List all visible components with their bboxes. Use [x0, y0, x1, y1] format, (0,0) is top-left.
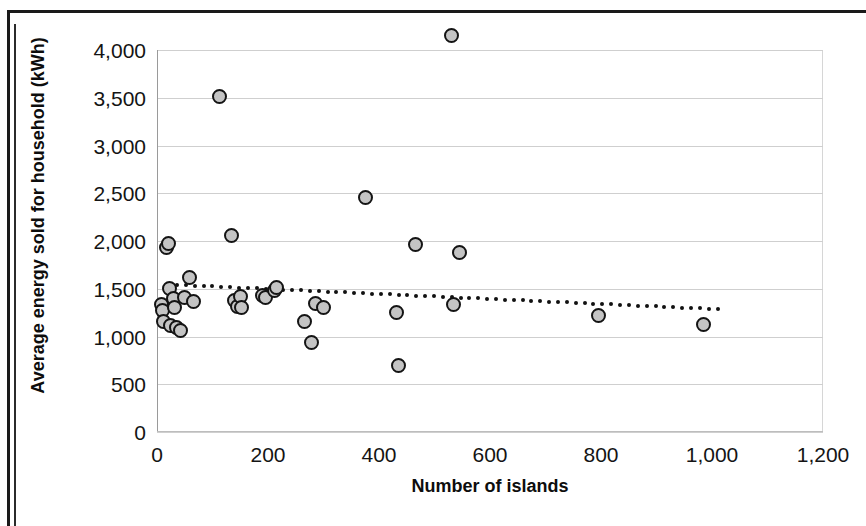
x-axis-tick-labels: 02004006008001,0001,200 [0, 444, 866, 472]
figure: Average energy sold for household (kWh) … [0, 0, 866, 526]
scatter-point [161, 236, 176, 251]
gridline [157, 384, 823, 385]
y-tick-label: 4,000 [93, 40, 146, 61]
trendline-dot [574, 301, 578, 305]
x-tick-label: 400 [361, 444, 396, 465]
gridline [157, 98, 823, 99]
scatter-point [186, 294, 201, 309]
x-tick-label: 600 [472, 444, 507, 465]
y-tick-label: 2,000 [93, 231, 146, 252]
x-axis-title: Number of islands [157, 476, 823, 497]
y-tick-label: 1,000 [93, 327, 146, 348]
y-axis-line [157, 50, 158, 432]
x-tick-label: 800 [583, 444, 618, 465]
gridline [157, 432, 823, 433]
gridline [157, 337, 823, 338]
x-tick-label: 200 [250, 444, 285, 465]
scatter-point [452, 245, 467, 260]
trendline-dot [308, 289, 312, 293]
y-tick-label: 2,500 [93, 183, 146, 204]
trendline-dot [547, 300, 551, 304]
trendline-dot [246, 286, 250, 290]
trendline-dot [379, 292, 383, 296]
trendline-dot [707, 307, 711, 311]
trendline-dot [689, 306, 693, 310]
y-tick-label: 3,000 [93, 136, 146, 157]
y-tick-label: 3,500 [93, 88, 146, 109]
scatter-point [444, 28, 459, 43]
trendline-dot [317, 289, 321, 293]
trendline-dot [512, 298, 516, 302]
scatter-point [358, 190, 373, 205]
y-tick-label: 0 [134, 422, 146, 443]
x-tick-label: 1,200 [797, 444, 850, 465]
trendline-dot [636, 304, 640, 308]
y-tick-label: 1,500 [93, 279, 146, 300]
trendline-dot [583, 301, 587, 305]
trendline-dot [716, 307, 720, 311]
x-tick-label: 0 [151, 444, 163, 465]
scatter-point [297, 314, 312, 329]
trendline-dot [202, 284, 206, 288]
trendline-dot [326, 290, 330, 294]
scatter-point [182, 270, 197, 285]
scatter-point [304, 335, 319, 350]
gridline [157, 193, 823, 194]
scatter-point [591, 308, 606, 323]
trendline-dot [618, 303, 622, 307]
plot-area [157, 50, 823, 432]
trendline-dot [645, 304, 649, 308]
scatter-point [696, 317, 711, 332]
y-tick-label: 500 [111, 374, 146, 395]
trendline-dot [397, 293, 401, 297]
scatter-point [224, 228, 239, 243]
scatter-point [173, 323, 188, 338]
gridline [157, 50, 823, 51]
trendline-dot [414, 294, 418, 298]
trendline-dot [485, 297, 489, 301]
scatter-point [212, 89, 227, 104]
gridline [157, 241, 823, 242]
trendline-dot [680, 306, 684, 310]
trendline-dot [503, 298, 507, 302]
trendline-dot [441, 295, 445, 299]
x-tick-label: 1,000 [686, 444, 739, 465]
trendline-dot [370, 292, 374, 296]
gridline [157, 146, 823, 147]
x-axis-line [157, 431, 823, 432]
y-axis-title: Average energy sold for household (kWh) [28, 16, 49, 416]
trendline-dot [193, 284, 197, 288]
